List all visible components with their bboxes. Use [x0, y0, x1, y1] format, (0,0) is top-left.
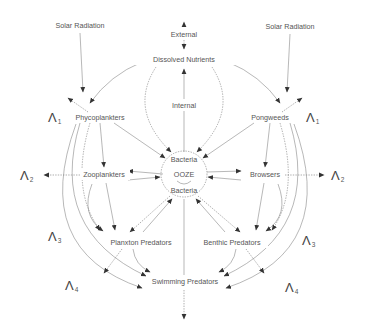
- node-phycoplankters: Phycoplankters: [75, 113, 125, 122]
- node-bacteria-top: Bacteria: [171, 155, 197, 164]
- node-swimming-predators: Swimming Predators: [152, 277, 219, 286]
- node-browsers: Browsers: [250, 170, 280, 179]
- ooze-arc: [177, 181, 191, 184]
- node-bacteria-bottom: Bacteria: [171, 186, 197, 195]
- node-planxton-predators: Planxton Predators: [110, 238, 172, 247]
- node-solar-radiation-right: Solar Radiation: [265, 22, 314, 31]
- lambda-3-right: Λ3: [302, 233, 316, 248]
- node-internal: Internal: [172, 101, 196, 110]
- node-solar-radiation-left: Solar Radiation: [55, 21, 104, 30]
- lambda-1-left: Λ1: [48, 110, 62, 125]
- lambda-4-right: Λ4: [285, 280, 299, 295]
- lambda-4-left: Λ4: [65, 278, 79, 293]
- node-dissolved-nutrients: Dissolved Nutrients: [153, 55, 215, 64]
- ecosystem-flow-diagram: Solar Radiation Solar Radiation External…: [0, 0, 367, 335]
- node-ooze: OOZE: [174, 170, 195, 179]
- node-benthic-predators: Benthic Predators: [203, 238, 261, 247]
- lambda-3-left: Λ3: [48, 229, 62, 244]
- node-pongweeds: Pongweeds: [251, 113, 289, 122]
- nodes: Solar Radiation Solar Radiation External…: [55, 21, 314, 287]
- node-zooplankters: Zooplankters: [83, 170, 125, 179]
- loss-symbols: Λ1 Λ2 Λ3 Λ4 Λ1 Λ2 Λ3 Λ4: [20, 110, 345, 295]
- lambda-1-right: Λ1: [306, 110, 320, 125]
- lambda-2-right: Λ2: [331, 168, 345, 183]
- lambda-2-left: Λ2: [20, 168, 34, 183]
- node-external: External: [171, 30, 198, 39]
